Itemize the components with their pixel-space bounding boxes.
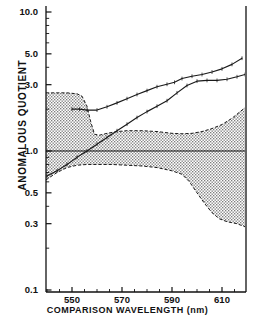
x-tick-label: 610 — [202, 294, 242, 305]
y-tick-label: 0.5 — [4, 187, 38, 198]
chart-canvas — [0, 0, 255, 324]
y-tick-label: 10.0 — [4, 6, 38, 17]
y-tick-label: 0.3 — [4, 218, 38, 229]
x-tick-label: 590 — [152, 294, 192, 305]
x-axis-title: COMPARISON WAVELENGTH (nm) — [0, 305, 255, 315]
y-tick-label: 3.0 — [4, 79, 38, 90]
x-axis-unit: (nm) — [187, 305, 209, 315]
x-tick-label: 550 — [52, 294, 92, 305]
y-tick-label: 0.1 — [4, 284, 38, 295]
x-tick-label: 570 — [102, 294, 142, 305]
upper-curve — [72, 58, 242, 110]
y-tick-label: 1.0 — [4, 145, 38, 156]
y-tick-label: 5.0 — [4, 48, 38, 59]
figure-panel: ANOMALOUS QUOTIENT COMPARISON WAVELENGTH… — [0, 0, 255, 324]
x-axis-title-main: COMPARISON WAVELENGTH — [47, 305, 184, 315]
